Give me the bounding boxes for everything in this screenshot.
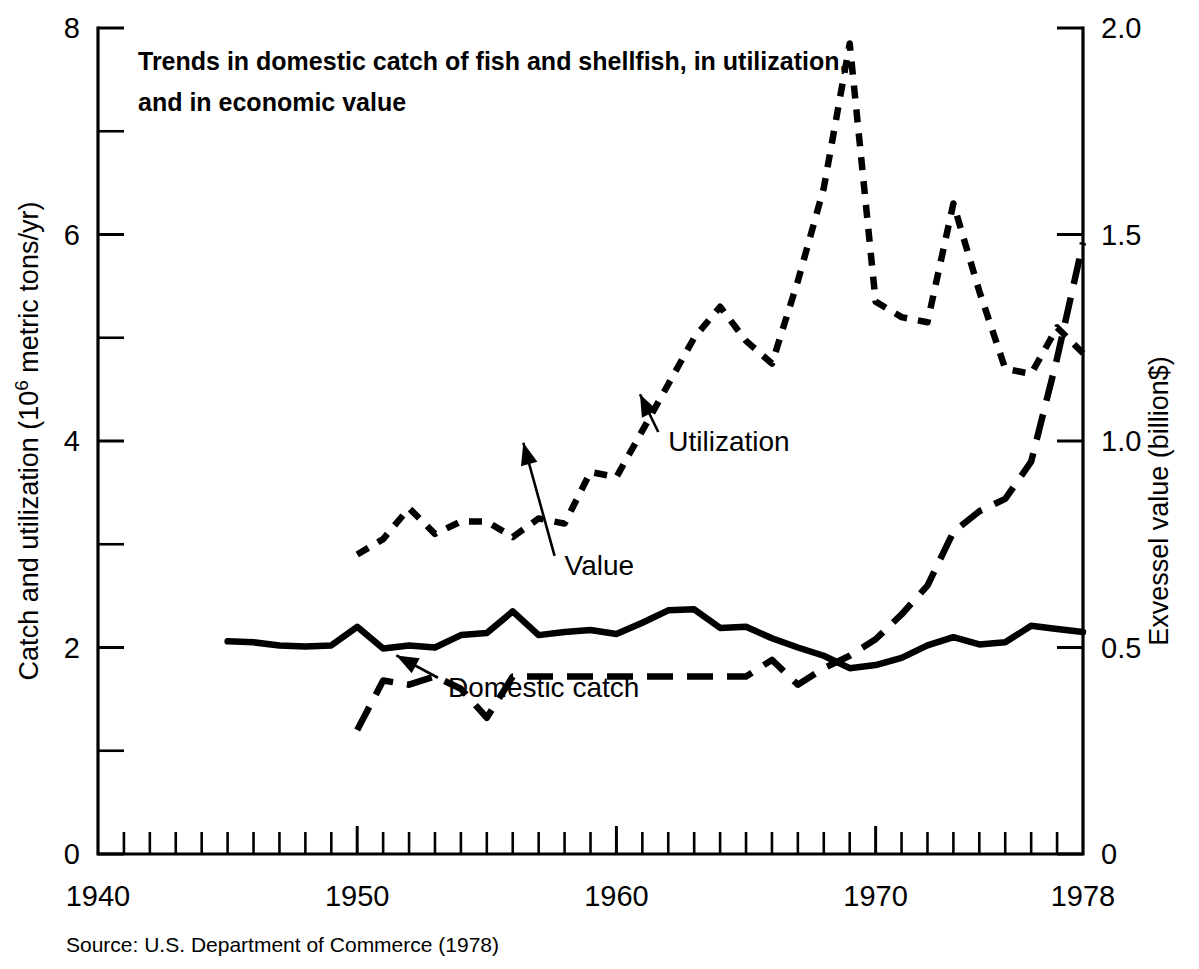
axis-frame — [98, 28, 1083, 854]
x-tick-label-1970: 1970 — [843, 880, 908, 912]
annotation-label-domestic-catch: Domestic catch — [448, 672, 639, 703]
series-utilization — [357, 43, 1083, 554]
y-tick-label-right-1: 1.0 — [1101, 425, 1141, 457]
x-tick-label-1940: 1940 — [66, 880, 131, 912]
y-tick-label-right-0.5: 0.5 — [1101, 632, 1141, 664]
x-tick-label-1950: 1950 — [325, 880, 390, 912]
annotation-label-value: Value — [565, 550, 635, 581]
x-tick-label-1978: 1978 — [1051, 880, 1116, 912]
chart-title-line-1: Trends in domestic catch of fish and she… — [138, 47, 846, 75]
y-tick-label-left-6: 6 — [64, 219, 80, 251]
annotation-arrow-value — [521, 443, 537, 466]
annotation-arrow-domestic-catch — [396, 655, 419, 673]
series-domestic-catch — [228, 609, 1083, 668]
y-tick-label-left-8: 8 — [64, 12, 80, 44]
y-tick-label-left-0: 0 — [64, 838, 80, 870]
y-tick-label-right-1.5: 1.5 — [1101, 219, 1141, 251]
y-tick-label-right-2: 2.0 — [1101, 12, 1141, 44]
y-tick-label-right-0: 0 — [1101, 838, 1117, 870]
annotation-label-utilization: Utilization — [668, 426, 789, 457]
line-chart: 0246800.51.01.52.019401950196019701978Ut… — [0, 0, 1199, 969]
y-axis-title-right: Exvessel value (billion$) — [1144, 356, 1174, 646]
chart-page: 0246800.51.01.52.019401950196019701978Ut… — [0, 0, 1199, 969]
source-note: Source: U.S. Department of Commerce (197… — [66, 933, 499, 956]
y-tick-label-left-4: 4 — [64, 425, 80, 457]
chart-title-line-2: and in economic value — [138, 88, 406, 116]
x-tick-label-1960: 1960 — [584, 880, 649, 912]
y-axis-title-left: Catch and utilization (106 metric tons/y… — [11, 202, 44, 681]
y-tick-label-left-2: 2 — [64, 632, 80, 664]
series-value — [357, 243, 1083, 730]
